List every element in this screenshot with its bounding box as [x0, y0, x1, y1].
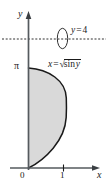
radical-expression: √sin y [60, 59, 81, 70]
y-axis-label: y [18, 9, 22, 19]
radicand-function: sin [64, 59, 75, 69]
calculus-figure: y x π 0 1 y=4 x=√sin y [0, 0, 108, 189]
x-tick-label-one: 1 [60, 171, 65, 180]
axis-of-revolution-operator: = [75, 25, 82, 35]
curve-equation-operator: = [52, 59, 59, 69]
figure-canvas [0, 0, 108, 189]
y-tick-label-pi: π [14, 61, 19, 71]
x-axis-label: x [97, 170, 101, 180]
y-axis-arrowhead [26, 11, 32, 19]
curve-equation-label: x=√sin y [48, 59, 81, 70]
axis-of-revolution-value: 4 [83, 25, 88, 35]
x-tick-label-zero: 0 [20, 171, 25, 180]
radicand: sin y [64, 59, 81, 70]
axis-of-revolution-label: y=4 [71, 26, 87, 36]
radicand-variable: y [76, 59, 80, 69]
rotation-ellipse-icon [57, 28, 67, 48]
